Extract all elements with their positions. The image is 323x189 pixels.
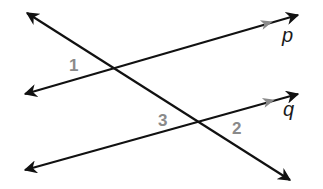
parallel-lines-diagram: 1 3 2 p q — [0, 0, 323, 189]
line-label-p: p — [281, 24, 293, 46]
transversal-line — [27, 13, 290, 180]
angle-label-1: 1 — [69, 56, 78, 75]
angle-label-2: 2 — [232, 119, 241, 138]
line-label-q: q — [283, 98, 294, 120]
angle-label-3: 3 — [158, 111, 167, 130]
line-p — [25, 15, 298, 94]
